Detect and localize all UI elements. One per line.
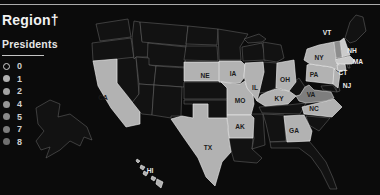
state-HI2[interactable] <box>140 165 145 170</box>
legend-swatch-icon <box>3 113 10 120</box>
legend-value: 0 <box>17 61 22 71</box>
legend-value: 1 <box>17 74 22 84</box>
state-label-OH: OH <box>280 76 290 83</box>
state-label-NE: NE <box>200 72 210 79</box>
state-FL[interactable] <box>270 141 337 189</box>
legend-title: Presidents <box>2 38 72 50</box>
state-SD[interactable] <box>184 46 218 61</box>
state-label-HI: HI <box>147 167 154 174</box>
legend-row-8: 8 <box>2 136 72 149</box>
legend-rows: 0124578 <box>2 60 72 148</box>
legend-swatch-icon <box>3 138 10 145</box>
legend-swatch-icon <box>3 88 10 95</box>
legend-value: 4 <box>17 99 22 109</box>
state-HI5[interactable] <box>156 179 163 188</box>
page-background: { "header": { "title": "Region\u2020" },… <box>0 0 380 195</box>
state-label-KY: KY <box>274 95 284 102</box>
legend-row-0: 0 <box>2 60 72 73</box>
state-AL[interactable] <box>263 114 286 142</box>
state-WA[interactable] <box>96 19 131 41</box>
state-label-PA: PA <box>310 71 319 78</box>
state-HI4[interactable] <box>151 176 156 181</box>
state-label-GA: GA <box>289 127 299 134</box>
legend-value: 5 <box>17 112 22 122</box>
state-label-TX: TX <box>204 144 213 151</box>
state-ND[interactable] <box>186 26 218 45</box>
state-OR[interactable] <box>92 38 134 61</box>
legend-swatch-icon <box>3 75 10 82</box>
legend-value: 2 <box>17 86 22 96</box>
state-WY[interactable] <box>147 43 186 67</box>
state-CO[interactable] <box>154 66 186 87</box>
legend-swatch-icon <box>3 63 10 70</box>
state-label-IL: IL <box>252 84 258 91</box>
state-ME[interactable] <box>345 15 366 43</box>
state-label-MA: MA <box>353 58 363 65</box>
state-RI[interactable] <box>347 64 350 68</box>
legend-swatch-icon <box>3 101 10 108</box>
legend-value: 7 <box>17 124 22 134</box>
state-MT[interactable] <box>140 22 188 46</box>
state-label-MO: MO <box>235 97 246 104</box>
state-label-NY: NY <box>314 54 324 61</box>
state-WI[interactable] <box>242 43 266 61</box>
state-label-CT: CT <box>339 69 348 76</box>
legend-row-2: 2 <box>2 85 72 98</box>
legend-row-7: 7 <box>2 123 72 136</box>
legend-row-4: 4 <box>2 98 72 111</box>
state-label-VA: VA <box>307 91 316 98</box>
state-MI_S[interactable] <box>263 42 284 62</box>
legend-divider <box>2 55 44 56</box>
state-NM[interactable] <box>152 85 182 118</box>
legend-row-5: 5 <box>2 110 72 123</box>
legend-value: 8 <box>17 137 22 147</box>
state-label-NH: NH <box>347 47 357 54</box>
state-label-CA: CA <box>98 94 108 101</box>
state-label-IA: IA <box>230 70 237 77</box>
legend-panel: Region† Presidents 0124578 <box>2 12 72 148</box>
legend-swatch-icon <box>3 126 10 133</box>
page-title: Region† <box>2 12 72 28</box>
state-label-AK: AK <box>235 123 245 130</box>
legend-row-1: 1 <box>2 73 72 86</box>
state-label-VT: VT <box>323 29 331 36</box>
state-label-NC: NC <box>309 105 319 112</box>
state-KS[interactable] <box>184 82 227 99</box>
state-label-NJ: NJ <box>343 82 352 89</box>
state-HI1[interactable] <box>136 159 140 163</box>
